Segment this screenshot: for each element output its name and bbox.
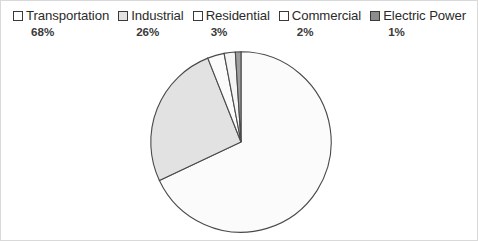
legend-item-header: Transportation xyxy=(13,9,109,23)
legend-label: Electric Power xyxy=(383,9,466,23)
pie-plot-area: Transportation 68%Industrial 26%Resident… xyxy=(149,50,333,234)
legend-item-residential[interactable]: Residential 3% xyxy=(193,9,270,39)
legend-item-transportation[interactable]: Transportation 68% xyxy=(13,9,109,39)
legend-item-electric-power[interactable]: Electric Power 1% xyxy=(370,9,466,39)
legend-value: 68% xyxy=(31,25,54,39)
legend-label: Residential xyxy=(206,9,270,23)
legend-label: Commercial xyxy=(292,9,361,23)
legend-swatch-icon xyxy=(279,11,289,21)
legend-swatch-icon xyxy=(118,11,128,21)
legend-item-header: Residential xyxy=(193,9,270,23)
legend-value: 3% xyxy=(211,25,228,39)
legend-label: Transportation xyxy=(26,9,109,23)
legend-swatch-icon xyxy=(13,11,23,21)
legend-item-header: Commercial xyxy=(279,9,361,23)
pie-slice-group: Transportation 68%Industrial 26%Resident… xyxy=(151,52,331,232)
legend-value: 2% xyxy=(297,25,314,39)
chart-legend: Transportation 68% Industrial 26% Reside… xyxy=(1,9,478,49)
legend-swatch-icon xyxy=(370,11,380,21)
legend-label: Industrial xyxy=(131,9,184,23)
legend-value: 1% xyxy=(388,25,405,39)
legend-value: 26% xyxy=(136,25,159,39)
legend-item-header: Electric Power xyxy=(370,9,466,23)
legend-item-industrial[interactable]: Industrial 26% xyxy=(118,9,184,39)
legend-item-commercial[interactable]: Commercial 2% xyxy=(279,9,361,39)
pie-chart-figure: Transportation 68% Industrial 26% Reside… xyxy=(0,0,478,241)
legend-item-header: Industrial xyxy=(118,9,184,23)
legend-swatch-icon xyxy=(193,11,203,21)
pie-svg: Transportation 68%Industrial 26%Resident… xyxy=(149,50,333,234)
